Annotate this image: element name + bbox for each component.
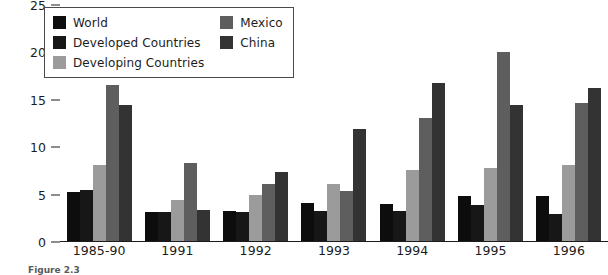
x-axis-tick-label: 1996	[530, 243, 608, 261]
y-axis-tick-mark	[51, 99, 60, 100]
y-axis-tick-mark	[51, 5, 60, 6]
legend-item: Mexico	[220, 14, 283, 31]
bar-group	[530, 5, 608, 241]
x-axis-labels: 1985-90199119921993199419951996	[60, 243, 608, 261]
bar	[471, 205, 484, 241]
bar	[549, 214, 562, 241]
bar	[119, 105, 132, 241]
bar	[432, 83, 445, 241]
bar	[93, 165, 106, 241]
bar	[588, 88, 601, 241]
bar	[340, 191, 353, 241]
legend-item: China	[220, 34, 283, 51]
legend-swatch	[53, 56, 66, 69]
y-axis-tick-label: 25	[16, 0, 46, 13]
bar-group	[451, 5, 529, 241]
bar-chart: 2520151050 1985-901991199219931994199519…	[0, 0, 608, 275]
bar	[301, 203, 314, 241]
bar	[275, 172, 288, 241]
legend-column-right: MexicoChina	[220, 14, 283, 71]
y-axis-tick-label: 20	[16, 45, 46, 60]
y-axis-tick-label: 5	[16, 187, 46, 202]
bar	[249, 195, 262, 241]
bar	[262, 184, 275, 241]
figure-caption: Figure 2.3	[28, 265, 80, 275]
bar	[106, 85, 119, 241]
legend-label: China	[240, 36, 275, 50]
x-axis-tick-label: 1991	[138, 243, 216, 261]
bar	[484, 168, 497, 241]
legend-item: Developed Countries	[53, 34, 204, 51]
legend-item: Developing Countries	[53, 54, 204, 71]
legend-label: Developed Countries	[73, 36, 201, 50]
bar	[314, 211, 327, 241]
legend-label: World	[73, 16, 108, 30]
bar	[562, 165, 575, 241]
x-axis-tick-label: 1994	[373, 243, 451, 261]
bar	[406, 170, 419, 241]
bar	[80, 190, 93, 241]
legend-swatch	[53, 36, 66, 49]
legend-item: World	[53, 14, 204, 31]
bar-group	[373, 5, 451, 241]
y-axis-tick-label: 15	[16, 92, 46, 107]
bar-group	[295, 5, 373, 241]
bar	[353, 129, 366, 241]
bar	[393, 211, 406, 241]
bar	[419, 118, 432, 241]
legend-swatch	[220, 36, 233, 49]
x-axis-tick-label: 1993	[295, 243, 373, 261]
bar	[536, 196, 549, 242]
bar	[236, 212, 249, 241]
x-axis-tick-label: 1992	[217, 243, 295, 261]
x-axis-line	[60, 241, 608, 242]
bar	[458, 196, 471, 241]
bar	[184, 163, 197, 241]
y-axis-tick-mark	[51, 147, 60, 148]
bar	[510, 105, 523, 241]
bar	[158, 212, 171, 241]
legend-swatch	[220, 16, 233, 29]
bar	[67, 192, 80, 241]
bar	[575, 103, 588, 241]
y-axis-tick-mark	[51, 194, 60, 195]
legend-swatch	[53, 16, 66, 29]
legend-label: Developing Countries	[73, 56, 204, 70]
x-axis-tick-label: 1985-90	[60, 243, 138, 261]
y-axis-tick-mark	[51, 242, 60, 243]
bar	[145, 212, 158, 241]
legend: WorldDeveloped CountriesDeveloping Count…	[44, 7, 294, 78]
legend-column-left: WorldDeveloped CountriesDeveloping Count…	[53, 14, 204, 71]
bar	[223, 211, 236, 241]
bar	[327, 184, 340, 241]
legend-label: Mexico	[240, 16, 283, 30]
bar	[497, 52, 510, 241]
y-axis-tick-label: 10	[16, 140, 46, 155]
bar	[380, 204, 393, 241]
bar	[171, 200, 184, 241]
x-axis-tick-label: 1995	[451, 243, 529, 261]
y-axis-tick-label: 0	[16, 235, 46, 250]
bar	[197, 210, 210, 241]
